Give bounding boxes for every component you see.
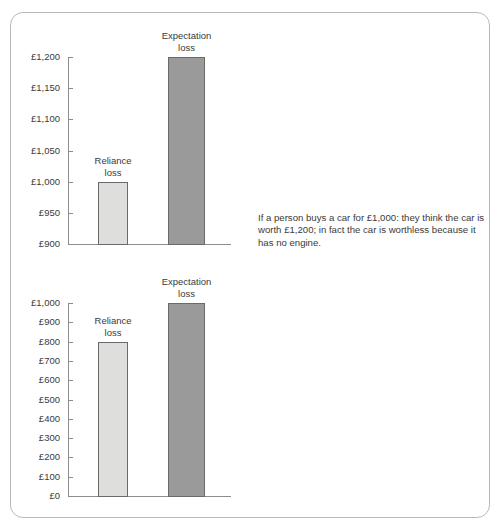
bar-label-line2: loss <box>137 288 237 300</box>
y-axis-tick-label: £600 <box>0 375 64 385</box>
y-axis-tick <box>69 438 73 439</box>
panel-top: £1,200£1,150£1,100£1,050£1,000£950£900Re… <box>0 0 500 265</box>
y-axis-tick <box>69 361 73 362</box>
y-axis-tick-label: £700 <box>0 356 64 366</box>
y-axis-tick-label: £1,100 <box>0 114 64 124</box>
bar-label-reliance-loss: Relianceloss <box>63 155 163 178</box>
y-axis-tick-label: £1,200 <box>0 52 64 62</box>
y-axis-tick-label: £300 <box>0 433 64 443</box>
y-axis-tick-label: £1,000 <box>0 298 64 308</box>
panel-bottom: £1,000£900£800£700£600£500£400£300£200£1… <box>0 265 500 530</box>
y-axis-tick <box>69 477 73 478</box>
y-axis-tick-label: £1,150 <box>0 83 64 93</box>
bar-label-reliance-loss: Relianceloss <box>63 315 163 338</box>
y-axis-tick <box>69 182 73 183</box>
top-chart-plot: £1,200£1,150£1,100£1,050£1,000£950£900Re… <box>0 0 250 265</box>
y-axis-tick-label: £1,000 <box>0 177 64 187</box>
bar-label-line1: Expectation <box>137 276 237 288</box>
y-axis-tick <box>69 457 73 458</box>
y-axis-tick-label: £100 <box>0 472 64 482</box>
y-axis-tick <box>69 213 73 214</box>
bar-label-line1: Reliance <box>63 155 163 167</box>
bar-reliance-loss <box>98 342 128 497</box>
y-axis-tick <box>69 400 73 401</box>
y-axis-tick <box>69 496 73 497</box>
y-axis-tick <box>69 419 73 420</box>
y-axis-tick-label: £200 <box>0 452 64 462</box>
y-axis-tick <box>69 88 73 89</box>
y-axis-tick-label: £900 <box>0 239 64 249</box>
bar-reliance-loss <box>98 182 128 245</box>
bar-label-line2: loss <box>137 42 237 54</box>
y-axis-tick <box>69 342 73 343</box>
bar-label-expectation-loss: Expectationloss <box>137 276 237 299</box>
y-axis-tick-label: £800 <box>0 337 64 347</box>
bar-label-line1: Reliance <box>63 315 163 327</box>
bar-label-line2: loss <box>63 167 163 179</box>
y-axis-tick-label: £950 <box>0 208 64 218</box>
y-axis-tick <box>69 244 73 245</box>
y-axis-tick <box>69 151 73 152</box>
y-axis-tick-label: £900 <box>0 317 64 327</box>
figure-container: £1,200£1,150£1,100£1,050£1,000£950£900Re… <box>0 0 500 530</box>
x-axis-baseline <box>68 496 231 497</box>
y-axis-tick-label: £0 <box>0 491 64 501</box>
y-axis-tick-label: £500 <box>0 395 64 405</box>
bar-expectation-loss <box>168 57 205 245</box>
bar-label-line2: loss <box>63 327 163 339</box>
bar-expectation-loss <box>168 303 205 497</box>
y-axis-tick <box>69 380 73 381</box>
y-axis-tick <box>69 57 73 58</box>
y-axis-tick <box>69 119 73 120</box>
bottom-chart-plot: £1,000£900£800£700£600£500£400£300£200£1… <box>0 265 250 530</box>
y-axis-tick-label: £1,050 <box>0 146 64 156</box>
caption-top: If a person buys a car for £1,000: they … <box>258 212 486 249</box>
bar-label-line1: Expectation <box>137 30 237 42</box>
y-axis-tick <box>69 303 73 304</box>
x-axis-baseline <box>68 244 231 245</box>
bar-label-expectation-loss: Expectationloss <box>137 30 237 53</box>
y-axis-tick-label: £400 <box>0 414 64 424</box>
